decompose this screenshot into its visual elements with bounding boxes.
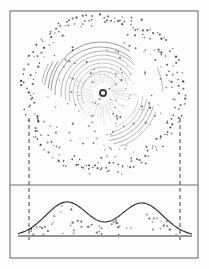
profile-scatter-point [80, 221, 82, 223]
profile-scatter-point [47, 230, 49, 232]
scatter-point [115, 83, 117, 85]
scatter-point [149, 107, 151, 109]
halo-point [67, 24, 69, 26]
halo-point [30, 74, 32, 76]
halo-point [145, 146, 147, 148]
halo-point [58, 23, 60, 25]
scatter-point [121, 72, 123, 74]
halo-point [73, 155, 75, 157]
profile-scatter-point [32, 233, 34, 235]
scatter-point [123, 42, 125, 44]
scatter-point [127, 34, 129, 36]
halo-point [182, 72, 183, 73]
halo-point [184, 103, 186, 105]
halo-point [183, 88, 185, 90]
halo-point [52, 157, 53, 158]
profile-scatter-point [36, 226, 38, 228]
scatter-point [105, 149, 106, 150]
halo-point [163, 37, 164, 38]
scatter-point [112, 131, 114, 133]
halo-point [49, 33, 51, 35]
halo-point [99, 13, 101, 15]
halo-point [164, 134, 165, 135]
halo-point [37, 66, 39, 68]
scatter-point [109, 88, 111, 90]
halo-point [28, 91, 30, 93]
profile-scatter-point [53, 215, 55, 217]
halo-point [88, 168, 90, 170]
scatter-point [92, 122, 93, 123]
scatter-point [59, 79, 61, 81]
halo-point [165, 55, 166, 56]
halo-point [20, 84, 22, 86]
halo-point [91, 19, 93, 21]
profile-scatter-point [156, 217, 158, 219]
scatter-point [130, 73, 132, 75]
halo-point [72, 18, 74, 20]
halo-point [149, 38, 151, 40]
halo-point [171, 118, 173, 120]
profile-scatter-point [73, 229, 75, 231]
profile-scatter-point [51, 223, 53, 225]
scatter-point [90, 72, 92, 74]
profile-scatter-point [152, 221, 154, 223]
halo-point [140, 161, 142, 163]
scatter-point [92, 81, 94, 83]
halo-point [130, 24, 132, 26]
scatter-point [144, 71, 146, 73]
halo-point [50, 36, 52, 38]
halo-point [33, 93, 34, 94]
halo-point [77, 164, 79, 166]
scatter-point [86, 61, 88, 63]
profile-scatter-point [87, 226, 89, 228]
profile-scatter-point [70, 208, 72, 210]
figure-canvas [0, 0, 209, 269]
halo-point [91, 15, 93, 17]
halo-point [179, 104, 181, 106]
halo-point [82, 15, 84, 17]
profile-scatter-point [53, 222, 54, 223]
halo-point [33, 136, 34, 137]
halo-point [26, 87, 28, 89]
halo-point [155, 138, 157, 140]
halo-point [89, 173, 91, 175]
halo-point [33, 56, 34, 57]
scatter-point [145, 122, 147, 124]
scatter-point [143, 51, 144, 52]
halo-point [63, 160, 64, 161]
halo-point [171, 87, 172, 88]
scatter-point [110, 99, 111, 100]
halo-point [109, 162, 111, 164]
scatter-point [96, 138, 98, 140]
halo-point [57, 160, 58, 161]
scatter-point [75, 104, 77, 106]
profile-scatter-point [101, 233, 103, 235]
halo-point [178, 59, 180, 61]
halo-point [185, 95, 187, 97]
halo-point [84, 20, 86, 22]
scatter-point [129, 95, 130, 96]
scatter-point [118, 149, 119, 150]
halo-point [53, 145, 54, 146]
profile-scatter-point [72, 232, 74, 234]
scatter-point [87, 137, 88, 138]
scatter-point [115, 50, 117, 52]
scatter-point [124, 148, 126, 150]
halo-point [174, 107, 176, 109]
halo-point [32, 51, 34, 53]
halo-point [122, 166, 124, 168]
halo-point [162, 145, 164, 147]
halo-point [30, 95, 31, 96]
profile-scatter-point [60, 211, 61, 212]
halo-point [177, 79, 179, 81]
halo-point [58, 31, 59, 32]
scatter-point [128, 98, 130, 100]
halo-point [108, 170, 110, 172]
scatter-point [115, 76, 116, 77]
scatter-point [115, 100, 116, 101]
scatter-point [115, 73, 117, 75]
scatter-point [126, 145, 128, 147]
halo-point [97, 167, 99, 169]
halo-point [112, 162, 114, 164]
halo-point [37, 119, 39, 121]
